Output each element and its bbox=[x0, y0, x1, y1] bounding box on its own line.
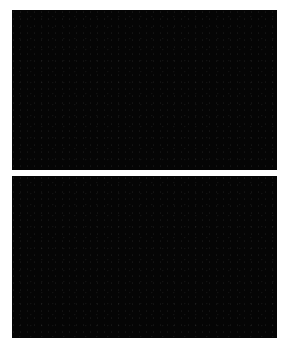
sky-noise bbox=[12, 10, 277, 170]
sky-noise bbox=[12, 176, 277, 338]
star-field-panel-bottom bbox=[12, 176, 277, 338]
star-field-panel-top bbox=[12, 10, 277, 170]
